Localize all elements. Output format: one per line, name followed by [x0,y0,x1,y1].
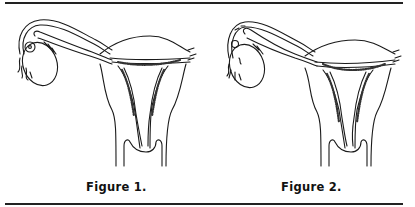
bottom-rule [5,203,403,205]
ovary [224,40,270,92]
fallopian-tube [228,22,315,58]
figure-2-caption: Figure 2. [281,180,342,194]
cervix [329,140,367,166]
follicle [232,41,239,48]
uterus-diagram-1 [0,6,205,176]
figure-1-caption: Figure 1. [86,180,147,194]
fallopian-tube [19,20,112,54]
uterus-diagram-2 [205,6,410,176]
cervix [124,140,162,166]
figure-1: Figure 1. [0,6,205,198]
top-rule [5,2,403,4]
uterus [305,40,395,56]
figure-2: Figure 2. [205,6,410,198]
endometrium-top [118,60,180,65]
ovary [17,38,63,90]
fimbriae [18,58,32,80]
uterus [100,36,190,54]
